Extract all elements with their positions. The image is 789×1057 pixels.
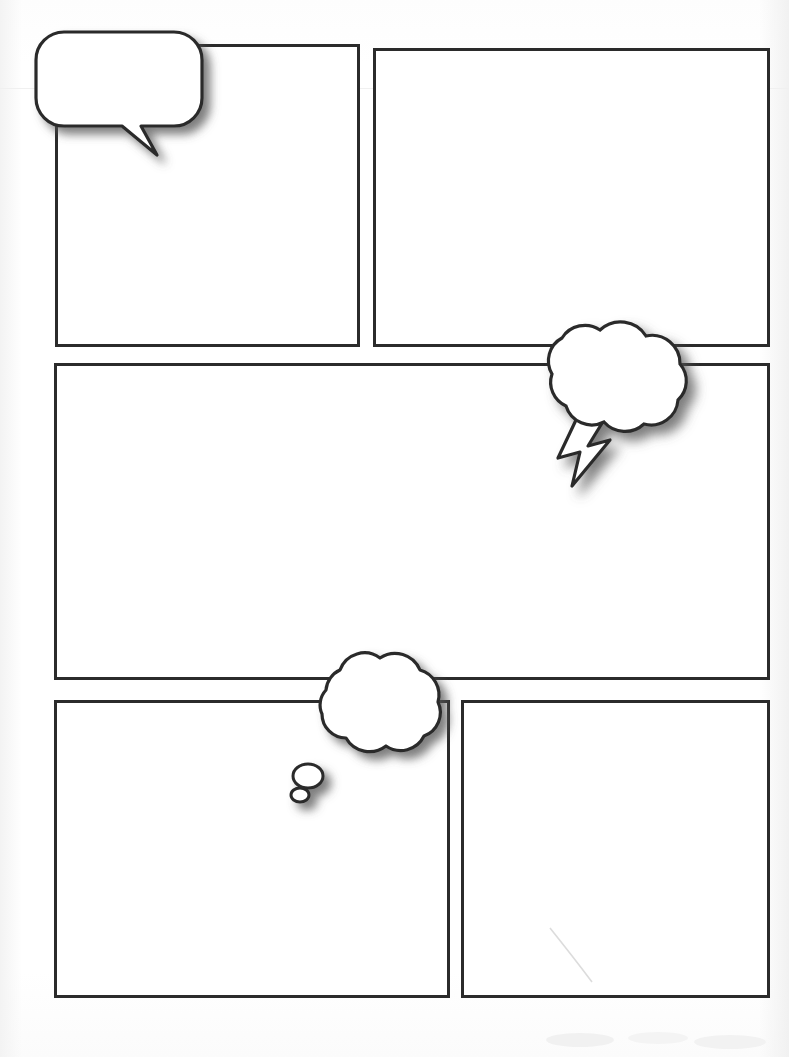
shout-balloon-body [548,322,686,432]
thought-balloon-dot-small [291,788,309,802]
page-left-edge-shade [0,0,22,1057]
thought-balloon-dot-large [293,764,323,788]
thought-balloon[interactable] [284,636,479,816]
thought-balloon-body [320,653,440,752]
smudge-artifact [540,1020,780,1057]
speech-balloon[interactable] [34,20,224,175]
comic-panel-5[interactable] [461,700,770,998]
comic-page [0,0,789,1057]
shout-balloon-lightning-tail [558,420,610,486]
speech-balloon-body [36,32,202,155]
shout-balloon[interactable] [500,300,715,505]
